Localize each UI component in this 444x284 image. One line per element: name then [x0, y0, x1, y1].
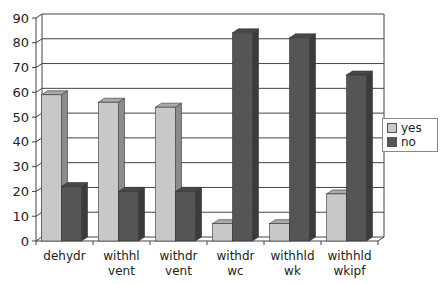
- x-category-label: withdr: [159, 249, 197, 263]
- x-category-label: wk: [284, 264, 301, 278]
- x-category-label: wkipf: [334, 264, 367, 278]
- bar-no-5: [347, 71, 373, 241]
- bar-chart: 0102030405060708090dehydrwithhlventwithd…: [0, 0, 444, 284]
- legend-label-no: no: [401, 135, 416, 149]
- y-axis: 0102030405060708090: [12, 11, 36, 249]
- x-category-label: wc: [227, 264, 243, 278]
- y-tick-label: 30: [12, 159, 29, 174]
- chart-legend: yes no: [382, 118, 438, 152]
- x-category-label: withhld: [327, 249, 371, 263]
- x-category-label: withhl: [103, 249, 139, 263]
- y-tick-label: 0: [21, 234, 29, 249]
- bar-no-2: [176, 187, 202, 241]
- y-tick-label: 60: [12, 85, 29, 100]
- x-axis: dehydrwithhlventwithdrventwithdrwcwithhl…: [36, 237, 384, 278]
- y-tick-label: 70: [12, 60, 29, 75]
- legend-item-no: no: [387, 135, 433, 149]
- bar-no-4: [290, 34, 316, 241]
- x-category-label: withhld: [270, 249, 314, 263]
- x-category-label: vent: [165, 264, 192, 278]
- x-category-label: withdr: [216, 249, 254, 263]
- legend-swatch-no: [387, 137, 397, 147]
- bar-no-1: [119, 187, 145, 241]
- y-tick-label: 40: [12, 134, 29, 149]
- bar-no-3: [233, 29, 259, 241]
- x-category-label: vent: [108, 264, 135, 278]
- x-category-label: dehydr: [43, 249, 85, 263]
- y-tick-label: 50: [12, 110, 29, 125]
- y-tick-label: 20: [12, 184, 29, 199]
- bars: [42, 29, 373, 241]
- legend-swatch-yes: [387, 123, 397, 133]
- legend-item-yes: yes: [387, 121, 433, 135]
- y-tick-label: 90: [12, 11, 29, 26]
- y-tick-label: 10: [12, 209, 29, 224]
- y-tick-label: 80: [12, 35, 29, 50]
- legend-label-yes: yes: [401, 121, 422, 135]
- bar-no-0: [62, 182, 88, 241]
